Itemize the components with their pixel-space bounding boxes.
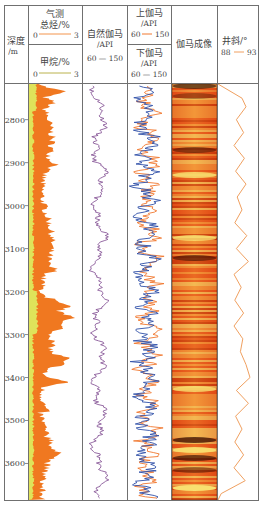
well-log-chart: 深度 /m 气测 总烃/% 0 3 甲烷/% 0 3 自然伽马 /API 60 …: [0, 0, 263, 508]
depth-unit: /m: [8, 47, 18, 56]
incl-max: 93: [247, 48, 257, 57]
total-gas-min: 0: [33, 31, 38, 40]
down-gr-range: 60 — 150: [131, 70, 167, 79]
depth-tick-label: 3000: [5, 202, 25, 211]
depth-title: 深度: [7, 35, 25, 46]
updown-gr-track-curves: [129, 86, 164, 498]
gr-label-1: 自然伽马: [87, 28, 123, 39]
depth-tick-label: 3100: [5, 245, 25, 254]
depth-tick-label: 3600: [5, 459, 25, 468]
total-gas-max: 3: [74, 31, 79, 40]
methane-max: 3: [74, 70, 79, 79]
gr-track-curve: [89, 86, 109, 498]
up-gr-max: 150: [155, 30, 170, 39]
total-gas-label-2: 总烃/%: [40, 19, 70, 30]
depth-tick-label: 3400: [5, 374, 25, 383]
depth-tick-label: 2800: [5, 116, 25, 125]
down-gr-label-2: /API: [141, 59, 157, 68]
depth-tick-label: 2900: [5, 159, 25, 168]
depth-tick-label: 3200: [5, 288, 25, 297]
methane-min: 0: [33, 70, 38, 79]
up-gr-label-1: 上伽马: [136, 7, 163, 18]
methane-label: 甲烷/%: [40, 56, 70, 67]
up-gr-min: 60: [131, 30, 141, 39]
depth-tick-label: 3500: [5, 416, 25, 425]
inclination-curve: [218, 84, 250, 500]
gr-label-2: /API: [97, 40, 113, 49]
up-gr-label-2: /API: [141, 19, 157, 28]
gr-curve: [89, 86, 109, 498]
incl-min: 88: [221, 48, 231, 57]
inclination-track-curve: [218, 84, 250, 500]
total-gas-label-1: 气测: [46, 8, 64, 19]
gas-track-curves: [29, 84, 75, 500]
gamma-image-track: [172, 83, 217, 500]
gamma-image-title: 伽马成像: [176, 38, 212, 49]
depth-ticks: 280029003000310032003300340035003600: [5, 116, 29, 469]
gr-range: 60 — 150: [87, 54, 123, 63]
down-gr-label-1: 下伽马: [136, 47, 163, 58]
depth-tick-label: 3300: [5, 331, 25, 340]
incl-label: 井斜/°: [222, 35, 248, 46]
